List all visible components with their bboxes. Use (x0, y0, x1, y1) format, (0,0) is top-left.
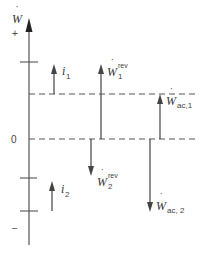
arrow-wac2: W ˙ ac, 2 (147, 139, 185, 215)
label-i2-sub: 2 (65, 190, 70, 199)
label-wac1-sub: ac,1 (177, 101, 193, 110)
axis-label-dot: ˙ (15, 3, 19, 15)
label-wac1-dot: ˙ (169, 86, 172, 97)
arrow-up-icon (157, 94, 163, 104)
label-wac2-sub: ac, 2 (167, 206, 185, 215)
arrow-down-icon (147, 202, 153, 212)
label-i2-base: i (61, 182, 64, 196)
axis-label: W ˙ + − 0 (11, 3, 23, 234)
label-i1-base: i (62, 64, 65, 78)
plus-sign: + (12, 28, 18, 39)
arrow-up-icon (98, 64, 104, 74)
arrow-up-icon (51, 64, 57, 74)
label-w1rev-sup: rev (118, 62, 128, 69)
zero-label: 0 (11, 134, 17, 145)
arrow-w2-rev: W ˙ 2 rev (88, 139, 118, 191)
arrow-down-icon (88, 166, 94, 176)
label-w2rev-dot: ˙ (100, 167, 103, 178)
arrow-i1: i 1 (51, 64, 71, 94)
axis-arrowhead-icon (26, 18, 33, 32)
label-w1rev-sub: 1 (118, 72, 123, 81)
arrow-w1-rev: W ˙ 1 rev (98, 57, 128, 139)
label-w2rev-sub: 2 (108, 182, 113, 191)
arrow-i2: i 2 (49, 181, 70, 211)
label-w2rev-sup: rev (108, 172, 118, 179)
arrow-up-icon (49, 181, 55, 191)
label-wac2-dot: ˙ (159, 191, 162, 202)
label-w1rev-dot: ˙ (110, 57, 113, 68)
label-i1-sub: 1 (66, 72, 71, 81)
diagram-canvas: W ˙ + − 0 i 1 i 2 W ˙ 1 rev W ˙ 2 (0, 0, 204, 256)
minus-sign: − (12, 223, 18, 234)
